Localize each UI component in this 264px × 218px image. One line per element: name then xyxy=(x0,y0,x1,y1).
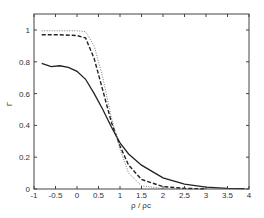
y-tick-label: 0.8 xyxy=(19,58,31,67)
x-tick-label: 3 xyxy=(204,191,209,200)
x-tick-label: 0 xyxy=(75,191,80,200)
y-tick-label: 1 xyxy=(26,26,31,35)
x-tick-label: 3.5 xyxy=(222,191,234,200)
x-tick-label: -1 xyxy=(30,191,38,200)
x-tick-label: 0.5 xyxy=(93,191,105,200)
x-tick-label: -0.5 xyxy=(49,191,63,200)
series-dashed-line xyxy=(42,35,206,189)
y-tick-label: 0.6 xyxy=(19,90,31,99)
x-tick-label: 1.5 xyxy=(136,191,148,200)
x-axis-label: ρ / ρc xyxy=(131,201,151,210)
line-chart: -1-0.500.511.522.533.54 00.20.40.60.81 ρ… xyxy=(0,0,264,218)
series-solid-line xyxy=(42,63,245,188)
x-axis-ticks: -1-0.500.511.522.533.54 xyxy=(30,14,251,200)
y-axis-label: Γ xyxy=(5,101,14,106)
axes-box xyxy=(34,14,249,189)
y-tick-label: 0 xyxy=(26,185,31,194)
y-tick-label: 0.4 xyxy=(19,121,31,130)
y-axis-ticks: 00.20.40.60.81 xyxy=(19,26,249,194)
x-tick-label: 1 xyxy=(118,191,123,200)
y-tick-label: 0.2 xyxy=(19,153,31,162)
x-tick-label: 2.5 xyxy=(179,191,191,200)
plot-curves xyxy=(42,31,245,189)
x-tick-label: 2 xyxy=(161,191,166,200)
x-tick-label: 4 xyxy=(247,191,252,200)
